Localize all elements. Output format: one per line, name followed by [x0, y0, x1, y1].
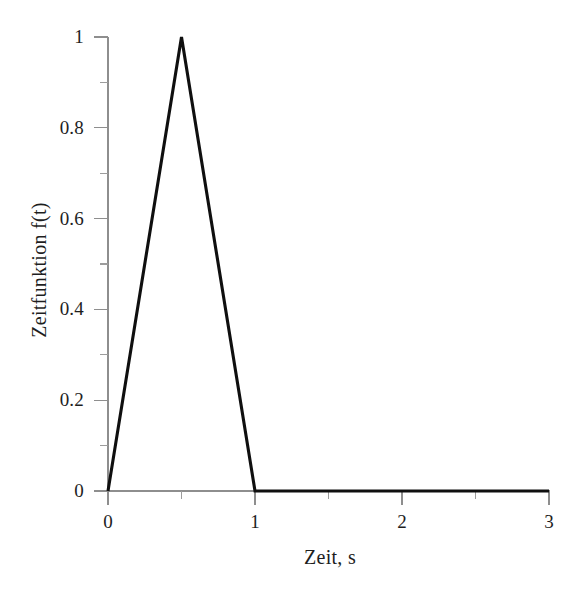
- x-tick-label-2: 2: [397, 511, 407, 533]
- x-axis-title: Zeit, s: [304, 546, 356, 569]
- y-tick-label-0: 0: [22, 480, 84, 502]
- data-series-ft: [108, 37, 549, 491]
- x-tick-label-3: 3: [544, 511, 554, 533]
- y-tick-label-1: 1: [22, 26, 84, 48]
- y-minor-ticks: [100, 82, 108, 445]
- y-tick-label-0-2: 0.2: [22, 389, 84, 411]
- x-tick-label-1: 1: [250, 511, 260, 533]
- chart-figure: 0 0.2 0.4 0.6 0.8 1 0 1 2 3 Zeit, s Zeit…: [0, 0, 580, 590]
- y-tick-label-0-8: 0.8: [22, 117, 84, 139]
- plot-canvas: [0, 0, 580, 590]
- y-axis-title: Zeitfunktion f(t): [28, 202, 51, 338]
- x-tick-label-0: 0: [103, 511, 113, 533]
